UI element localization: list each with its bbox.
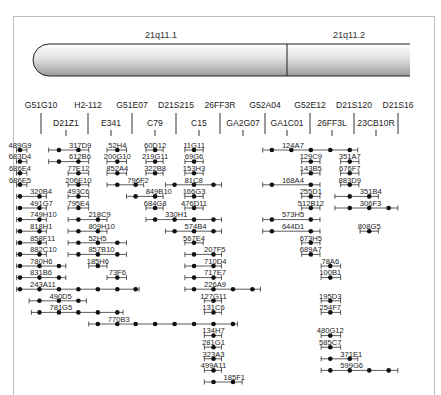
clone-sts-hit — [18, 287, 23, 292]
clone-label: 134H7 — [202, 326, 224, 335]
clone-684G8: 684G8 — [144, 199, 167, 211]
marker-label: 26FF3R — [204, 100, 235, 110]
clone-493C6: 493C6 — [67, 187, 89, 199]
clone-77E12: 77E12 — [67, 164, 89, 176]
clone-label: 857B10 — [88, 245, 114, 254]
clone-sts-hit — [192, 287, 197, 292]
clone-label: 195D3 — [319, 292, 341, 301]
clone-label: 795E4 — [67, 199, 89, 208]
clone-218C9: 218C9 — [68, 210, 111, 222]
clone-label: 683D4 — [9, 152, 31, 161]
clone-label: 78A6 — [321, 257, 339, 266]
clone-sts-hit — [76, 299, 81, 304]
clone-476D11: 476D11 — [181, 199, 207, 211]
clone-134H7: 134H7 — [202, 326, 224, 338]
clone-label: 69G6 — [185, 152, 204, 161]
clone-sts-hit — [153, 322, 158, 327]
clone-206E10: 206E10 — [65, 176, 91, 188]
clone-sts-hit — [270, 217, 275, 222]
clone-sts-hit — [328, 148, 333, 153]
clone-683D4: 683D4 — [9, 152, 31, 164]
clone-sts-hit — [309, 217, 314, 222]
clone-sts-hit — [115, 287, 120, 292]
clone-label: 129C9 — [300, 152, 322, 161]
clone-686E4: 686E4 — [9, 164, 31, 176]
clone-label: 490D5 — [49, 292, 71, 301]
clone-243A11: 243A11 — [17, 280, 140, 292]
marker-label: GA1C01 — [271, 118, 304, 128]
clone-sts-hit — [18, 217, 23, 222]
clone-81C8: 81C8 — [165, 176, 221, 188]
clone-770B3: 770B3 — [89, 315, 238, 327]
clone-sts-hit — [192, 322, 197, 327]
clone-849B10: 849B10 — [126, 187, 171, 199]
clone-sts-hit — [211, 380, 216, 385]
clone-226A9: 226A9 — [185, 280, 261, 292]
clone-195D3: 195D3 — [319, 292, 341, 304]
clone-label: 351A7 — [339, 152, 361, 161]
clone-sts-hit — [192, 275, 197, 280]
clone-label: 882C10 — [30, 245, 57, 254]
clone-491G7: 491G7 — [17, 199, 53, 211]
clone-sts-hit — [367, 368, 372, 373]
clone-717E7: 717E7 — [185, 268, 226, 280]
clone-label: 599G6 — [340, 361, 363, 370]
clone-label: 317D9 — [69, 141, 91, 150]
clone-sts-hit — [76, 217, 81, 222]
clone-sts-hit — [115, 241, 120, 246]
clone-sts-hit — [250, 287, 255, 292]
clone-254F7: 254F7 — [320, 303, 342, 315]
clone-label: 499A11 — [201, 361, 227, 370]
clone-809H10: 809H10 — [68, 222, 115, 234]
clone-label: 686E5 — [9, 176, 31, 185]
marker-label: D21S16 — [382, 100, 413, 110]
clone-sts-hit — [270, 148, 275, 153]
clone-710D4: 710D4 — [185, 257, 227, 269]
clone-sts-hit — [133, 287, 138, 292]
clone-320B4: 320B4 — [17, 187, 52, 199]
clone-sts-hit — [347, 206, 352, 211]
clone-371E1: 371E1 — [321, 350, 362, 362]
clone-689A7: 689A7 — [300, 245, 322, 257]
clone-351A7: 351A7 — [339, 152, 361, 164]
clone-852A4: 852A4 — [106, 164, 128, 176]
clone-sts-hit — [96, 322, 101, 327]
clone-label: 81C8 — [185, 176, 203, 185]
clone-sts-hit — [57, 264, 62, 269]
clone-124A7: 124A7 — [263, 141, 358, 153]
clone-sts-hit — [328, 357, 333, 362]
clone-sts-hit — [76, 310, 81, 315]
clone-78A6: 78A6 — [321, 257, 340, 269]
clone-676F7: 676F7 — [339, 164, 361, 176]
clone-label: 780H6 — [30, 257, 52, 266]
clone-label: 686E4 — [9, 164, 31, 173]
marker-label: G51E07 — [116, 100, 148, 110]
clone-sts-hit — [231, 287, 236, 292]
clone-label: 493C6 — [67, 187, 89, 196]
clone-sts-hit — [115, 183, 120, 188]
clone-label: 489G9 — [9, 141, 32, 150]
clone-153H3: 153H3 — [183, 164, 205, 176]
clone-sts-hit — [57, 275, 62, 280]
clone-label: 153H3 — [183, 164, 205, 173]
clone-166G3: 166G3 — [183, 187, 206, 199]
clone-label: 818H1 — [30, 222, 52, 231]
clone-label: 206E10 — [65, 176, 91, 185]
clone-sts-hit — [18, 194, 23, 199]
clone-sts-hit — [76, 241, 81, 246]
clone-11G11: 11G11 — [183, 141, 205, 153]
clone-673H5: 673H5 — [300, 234, 322, 246]
clone-sts-hit — [76, 229, 81, 234]
clone-sts-hit — [76, 252, 81, 257]
clone-sts-hit — [37, 299, 42, 304]
clone-sts-hit — [211, 183, 216, 188]
clone-795E4: 795E4 — [67, 199, 89, 211]
clone-796F2: 796F2 — [107, 176, 149, 188]
clone-label: 323A3 — [203, 350, 225, 359]
clone-255D1: 255D1 — [300, 187, 322, 199]
clone-52H4: 52H4 — [107, 141, 126, 153]
clone-490D5: 490D5 — [29, 292, 86, 304]
marker-label: D21Z1 — [53, 118, 79, 128]
clone-label: 858F11 — [30, 234, 55, 243]
clone-sts-hit — [386, 368, 391, 373]
